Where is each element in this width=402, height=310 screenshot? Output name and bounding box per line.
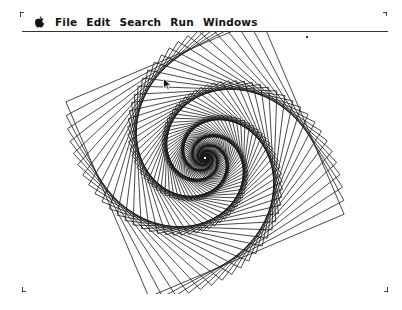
spiral-square xyxy=(78,32,333,285)
spiral-square xyxy=(89,42,322,275)
spiral-square xyxy=(182,135,229,182)
arrow-pointer-icon xyxy=(163,78,172,91)
spiral-square xyxy=(128,81,283,236)
spiral-square xyxy=(95,48,315,268)
spiral-square xyxy=(183,136,227,180)
menu-windows[interactable]: Windows xyxy=(203,16,258,28)
apple-menu-icon[interactable] xyxy=(34,16,45,28)
spiral-square xyxy=(140,93,270,223)
spiral-square xyxy=(163,116,247,200)
spiral-square xyxy=(134,87,276,229)
square-spiral-drawing xyxy=(22,32,388,294)
menu-file[interactable]: File xyxy=(55,16,77,28)
spiral-square xyxy=(129,82,280,233)
spiral-square xyxy=(166,119,245,198)
spiral-square xyxy=(183,136,227,180)
spiral-square xyxy=(128,81,283,236)
stray-pixel xyxy=(306,36,308,38)
menu-search[interactable]: Search xyxy=(119,16,161,28)
menu-run[interactable]: Run xyxy=(170,16,194,28)
spiral-square xyxy=(128,81,281,234)
spiral-square xyxy=(144,97,266,219)
mac-screen: File Edit Search Run Windows xyxy=(0,0,402,310)
spiral-square xyxy=(133,86,277,230)
spiral-square xyxy=(181,134,229,182)
spiral-square xyxy=(162,115,248,201)
spiral-square xyxy=(162,115,248,201)
menu-bar: File Edit Search Run Windows xyxy=(22,14,388,30)
spiral-square xyxy=(128,81,282,235)
spiral-square xyxy=(125,78,285,238)
spiral-square xyxy=(134,87,275,228)
spiral-square xyxy=(162,115,247,200)
spiral-square xyxy=(166,119,245,198)
spiral-square xyxy=(162,115,248,201)
menu-edit[interactable]: Edit xyxy=(86,16,110,28)
drawing-canvas xyxy=(22,32,388,294)
